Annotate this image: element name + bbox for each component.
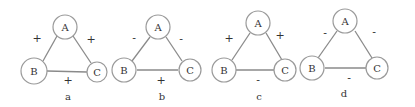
svg-text:A: A [253, 18, 262, 29]
sign-b-c: + [156, 74, 165, 87]
node-c: C [179, 59, 201, 81]
node-c: C [87, 62, 107, 82]
node-c: C [274, 59, 296, 81]
sign-b-c: - [256, 74, 260, 87]
sign-a-b: - [323, 27, 327, 40]
sign-a-b: + [224, 32, 233, 45]
caption-a: a [65, 91, 71, 102]
sign-a-c: + [275, 29, 284, 42]
node-b: B [300, 56, 324, 80]
node-c: C [366, 57, 388, 79]
edge-a-b [43, 36, 57, 61]
svg-text:A: A [153, 22, 162, 33]
sign-a-b: + [32, 32, 41, 45]
edge-b-c [47, 71, 87, 72]
panel-b: A B C - - + b [112, 15, 201, 102]
sign-a-c: + [86, 33, 95, 46]
caption-b: b [159, 91, 165, 102]
caption-d: d [341, 88, 348, 99]
svg-text:B: B [120, 65, 127, 76]
sign-a-c: - [372, 26, 376, 39]
node-a: A [146, 15, 170, 39]
svg-text:B: B [308, 63, 315, 74]
svg-text:B: B [30, 66, 37, 77]
svg-text:B: B [220, 65, 227, 76]
node-a: A [53, 15, 77, 39]
panel-c: A B C + + - c [212, 11, 296, 102]
sign-b-c: + [63, 74, 72, 87]
node-a: A [333, 9, 357, 33]
sign-a-c: - [179, 33, 183, 46]
caption-c: c [256, 91, 262, 102]
node-a: A [246, 11, 270, 35]
edge-a-c [355, 31, 372, 58]
svg-text:A: A [340, 16, 349, 27]
signed-triangle-diagrams: A B C + + + a A B C - - + [0, 0, 415, 107]
svg-text:A: A [60, 22, 69, 33]
svg-text:C: C [373, 63, 381, 74]
svg-text:C: C [186, 65, 194, 76]
svg-text:C: C [93, 67, 101, 78]
node-b: B [212, 58, 236, 82]
panel-d: A B C - - - d [300, 9, 388, 99]
sign-b-c: - [347, 72, 351, 85]
node-b: B [112, 58, 136, 82]
node-b: B [21, 58, 47, 84]
svg-text:C: C [281, 65, 289, 76]
sign-a-b: - [132, 32, 136, 45]
edge-a-b [318, 31, 337, 58]
edge-a-b [232, 33, 250, 60]
panel-a: A B C + + + a [21, 15, 107, 102]
